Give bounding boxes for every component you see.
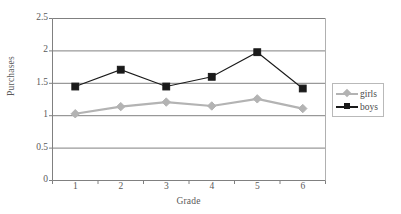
data-point-girls-2[interactable] [117,102,125,110]
chart-legend: girls boys [332,83,384,117]
legend-marker-girls-icon [336,88,358,99]
data-point-boys-2[interactable] [117,66,124,73]
series-line-girls [75,99,303,114]
legend-item-boys[interactable]: boys [336,100,378,113]
x-tick-label-2: 2 [106,182,136,192]
data-point-girls-6[interactable] [299,104,307,112]
data-point-girls-5[interactable] [253,95,261,103]
data-point-girls-3[interactable] [162,98,170,106]
data-point-boys-3[interactable] [163,83,170,90]
data-point-girls-1[interactable] [71,110,79,118]
data-point-boys-4[interactable] [208,73,215,80]
line-chart: Purchases 00.511.522.5 Grade girls boys … [0,0,401,214]
legend-marker-boys-icon [336,101,358,112]
legend-item-girls[interactable]: girls [336,87,378,100]
data-point-boys-6[interactable] [299,85,306,92]
data-point-girls-4[interactable] [208,102,216,110]
x-tick-label-1: 1 [60,182,90,192]
x-tick-label-3: 3 [151,182,181,192]
x-tick-label-5: 5 [242,182,272,192]
legend-label-girls: girls [358,89,377,99]
data-point-boys-5[interactable] [254,49,261,56]
x-tick-label-4: 4 [197,182,227,192]
data-point-boys-1[interactable] [72,83,79,90]
x-axis-title: Grade [52,196,325,206]
x-tick-label-6: 6 [288,182,318,192]
legend-label-boys: boys [358,102,378,112]
